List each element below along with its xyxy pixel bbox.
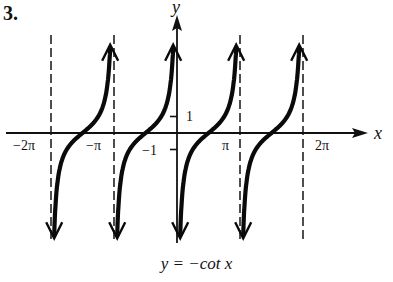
cot-graph: 3.xy1−1−2π−ππ2π (0, 0, 393, 282)
function-caption: y = −cot x (161, 254, 233, 273)
x-tick-label: π (222, 138, 229, 153)
curve-branch (54, 48, 110, 236)
y-tick-label: 1 (186, 109, 193, 124)
x-tick-label: −π (86, 138, 101, 153)
y-tick-label: −1 (142, 143, 157, 158)
x-tick-label: 2π (315, 138, 329, 153)
x-tick-label: −2π (13, 138, 35, 153)
curve-branch (243, 48, 299, 236)
problem-number: 3. (3, 2, 18, 24)
x-axis-label: x (373, 123, 382, 143)
y-axis-label: y (170, 0, 180, 17)
